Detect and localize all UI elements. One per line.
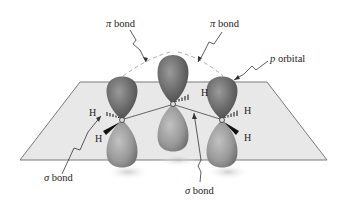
hydrogen-left-top: H — [89, 108, 96, 118]
hydrogen-center: H — [201, 88, 208, 98]
label-pi-bond-left: π bond — [106, 19, 135, 30]
label-text: bond — [215, 18, 239, 29]
leader-pi-bond-right — [198, 32, 222, 62]
hydrogen-right-top: H — [244, 106, 251, 116]
hydrogen-left-bottom: H — [95, 134, 102, 144]
label-text: orbital — [275, 53, 305, 64]
label-text: bond — [49, 172, 73, 183]
carbon-atom-right — [220, 118, 225, 123]
leader-p-orbital — [234, 61, 268, 80]
label-text: bond — [111, 18, 135, 29]
lobe-shadow — [158, 153, 198, 167]
label-sigma-bond-right: σ bond — [185, 186, 214, 197]
hydrogen-right-bottom: H — [244, 133, 251, 143]
label-pi-bond-right: π bond — [210, 19, 239, 30]
label-p-orbital: p orbital — [270, 54, 305, 65]
carbon-atom-center — [171, 102, 176, 107]
label-sigma-bond-left: σ bond — [44, 173, 73, 184]
label-text: bond — [190, 185, 214, 196]
carbon-atom-left — [120, 118, 125, 123]
